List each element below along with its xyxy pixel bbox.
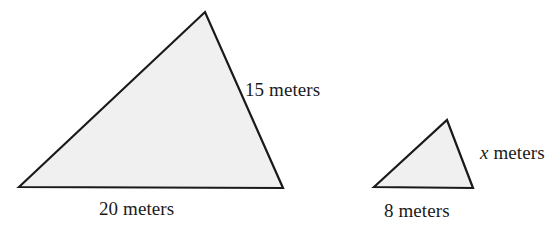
- large-triangle-base-label: 20 meters: [99, 198, 174, 219]
- small-triangle-shape: [374, 120, 473, 188]
- large-triangle-shape: [19, 12, 283, 188]
- triangles-svg: [0, 0, 557, 233]
- small-triangle-base-label: 8 meters: [384, 200, 450, 221]
- small-triangle-right-side-label: x meters: [480, 142, 545, 163]
- small-triangle-right-side-unit: meters: [489, 142, 545, 163]
- large-triangle-right-side-label: 15 meters: [245, 79, 320, 100]
- variable-x: x: [480, 142, 489, 163]
- figure-canvas: 15 meters 20 meters x meters 8 meters: [0, 0, 557, 233]
